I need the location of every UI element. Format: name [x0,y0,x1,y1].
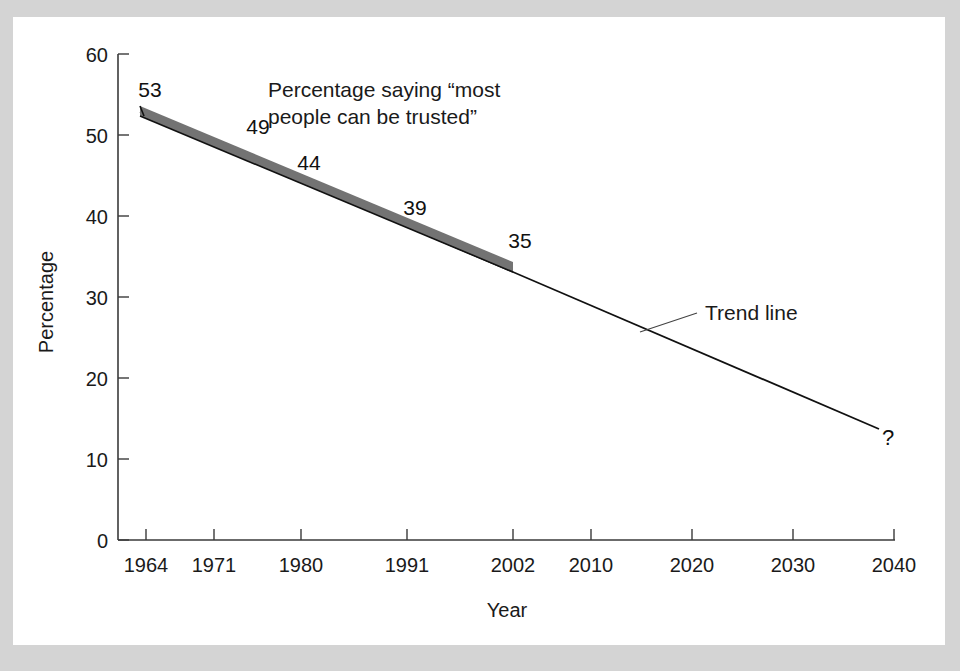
data-label-44: 44 [297,151,321,174]
x-tick-label-2002: 2002 [491,554,536,576]
x-tick-label-2010: 2010 [569,554,614,576]
y-tick-label-0: 0 [97,530,108,552]
future-uncertainty-marker: ? [882,425,894,450]
y-tick-label-10: 10 [86,449,108,471]
data-label-49: 49 [246,115,269,138]
y-tick-label-50: 50 [86,125,108,147]
y-axis-ticks [118,54,129,540]
series-annotation-line1: Percentage saying “most [268,78,500,101]
trend-line-label: Trend line [705,301,798,324]
y-axis-title: Percentage [35,251,57,353]
x-tick-label-1980: 1980 [279,554,324,576]
data-label-39: 39 [403,196,426,219]
x-axis-title: Year [487,599,528,621]
y-tick-label-20: 20 [86,368,108,390]
observed-data-edge [140,116,513,272]
series-annotation-line2: people can be trusted” [268,105,477,128]
x-tick-label-1991: 1991 [385,554,430,576]
y-tick-label-60: 60 [86,44,108,66]
chart-panel: 60 50 40 30 20 10 0 1964 1971 1980 [13,17,945,645]
trend-label-leader-line [640,313,697,332]
data-label-53: 53 [138,78,161,101]
y-tick-label-30: 30 [86,287,108,309]
trust-percentage-line-chart: 60 50 40 30 20 10 0 1964 1971 1980 [13,17,945,645]
x-tick-label-1964: 1964 [124,554,169,576]
y-tick-label-40: 40 [86,206,108,228]
x-tick-label-1971: 1971 [192,554,237,576]
x-axis-ticks [146,529,894,540]
chart-page: 60 50 40 30 20 10 0 1964 1971 1980 [0,0,960,671]
x-tick-label-2020: 2020 [670,554,715,576]
x-tick-label-2030: 2030 [771,554,816,576]
x-tick-label-2040: 2040 [872,554,917,576]
observed-data-band [140,106,513,272]
data-label-35: 35 [508,229,531,252]
